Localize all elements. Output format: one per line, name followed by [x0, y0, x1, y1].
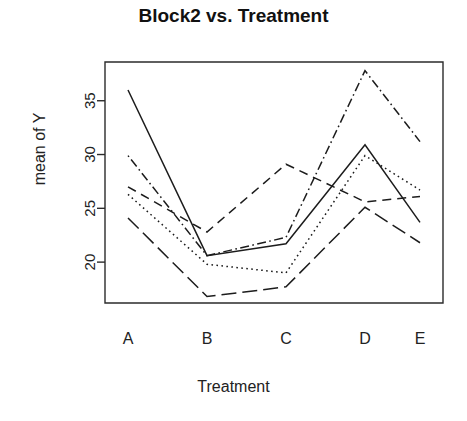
y-tick-label: 30	[81, 146, 98, 163]
series-line-series-4	[128, 71, 420, 256]
x-tick-label-c: C	[280, 330, 292, 347]
series-group	[128, 71, 420, 297]
x-tick-label-b: B	[202, 330, 213, 347]
chart-container: Block2 vs. Treatment mean of Y 20253035 …	[0, 0, 467, 421]
series-line-series-1	[128, 90, 420, 256]
series-line-series-5	[128, 207, 420, 296]
x-tick-label-d: D	[359, 330, 371, 347]
y-tick-label: 35	[81, 92, 98, 109]
y-tick-label: 25	[81, 200, 98, 217]
y-axis-ticks: 20253035	[81, 92, 105, 270]
series-line-series-3	[128, 164, 420, 232]
y-tick-label: 20	[81, 254, 98, 271]
x-axis-label: Treatment	[0, 378, 467, 396]
x-axis-tick-labels: ABCDE	[123, 330, 426, 347]
x-tick-label-a: A	[123, 330, 134, 347]
plot-area: 20253035 ABCDE	[0, 0, 467, 421]
x-tick-label-e: E	[415, 330, 426, 347]
